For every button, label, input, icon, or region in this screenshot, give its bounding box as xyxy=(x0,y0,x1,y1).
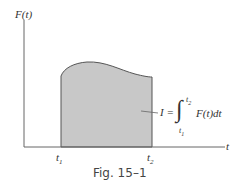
integral-upper-limit: t2 xyxy=(186,96,191,106)
integral-lhs: I = xyxy=(160,107,174,118)
t2-label: t2 xyxy=(147,152,154,166)
integral-lower-limit: t1 xyxy=(179,127,184,137)
x-axis-label: t xyxy=(226,141,229,152)
integrand: F(t)dt xyxy=(196,108,222,119)
integral-diagram xyxy=(0,0,237,190)
integral-sign: ∫ xyxy=(176,97,183,121)
figure-caption: Fig. 15–1 xyxy=(93,167,147,179)
t1-label: t1 xyxy=(56,152,63,166)
y-axis-label: F(t) xyxy=(15,9,32,20)
shaded-area xyxy=(61,62,152,147)
